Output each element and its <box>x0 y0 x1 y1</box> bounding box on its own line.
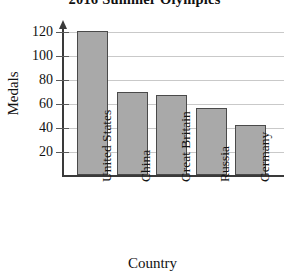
y-axis-line <box>62 24 64 177</box>
y-tick-mark-40 <box>56 128 69 129</box>
y-tick-mark-20 <box>56 152 69 153</box>
y-tick-mark-60 <box>56 104 69 105</box>
x-tick-label-great-britain: Great Britain <box>178 112 194 183</box>
chart-title: 2016 Summer Olympics <box>0 0 289 8</box>
y-axis-title: Medals <box>5 59 22 129</box>
chart-screenshot: 2016 Summer Olympics Medals Country 2040… <box>0 0 289 277</box>
x-tick-label-germany: Germany <box>257 132 273 182</box>
x-tick-label-russia: Russia <box>217 146 233 182</box>
y-axis-arrow-icon <box>59 20 67 29</box>
y-tick-label-80: 80 <box>39 72 53 88</box>
y-tick-label-40: 40 <box>39 120 53 136</box>
y-tick-mark-120 <box>56 32 69 33</box>
x-axis-line <box>62 175 284 177</box>
plot-area: 20406080100120 United StatesChinaGreat B… <box>62 20 284 177</box>
y-tick-mark-80 <box>56 80 69 81</box>
y-tick-label-60: 60 <box>39 96 53 112</box>
y-tick-mark-100 <box>56 56 69 57</box>
y-tick-label-20: 20 <box>39 144 53 160</box>
x-tick-label-china: China <box>138 150 154 182</box>
x-tick-label-united-states: United States <box>99 110 115 182</box>
x-axis-title: Country <box>60 255 245 272</box>
y-tick-label-120: 120 <box>32 24 53 40</box>
y-tick-label-100: 100 <box>32 48 53 64</box>
